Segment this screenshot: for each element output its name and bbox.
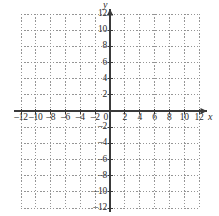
y-tick-label--4: –4 (98, 139, 107, 149)
y-tick-label--10: –10 (93, 187, 107, 197)
x-tick-label--12: –12 (14, 113, 28, 123)
y-tick-label--8: –8 (98, 171, 107, 181)
y-tick-label-2: 2 (102, 90, 107, 100)
y-axis-name: y (103, 0, 107, 10)
x-tick-label--4: –4 (76, 113, 85, 123)
coordinate-grid-figure: –12 –10 –8 –6 –4 –2 0 2 4 6 8 10 12 12 1… (0, 0, 219, 216)
x-tick-label-8: 8 (167, 113, 172, 123)
x-tick-label-4: 4 (137, 113, 142, 123)
x-tick-label-10: 10 (180, 113, 189, 123)
x-tick-label--6: –6 (61, 113, 70, 123)
coordinate-plane-svg (0, 0, 219, 216)
y-tick-label--2: –2 (98, 122, 107, 132)
y-tick-label-4: 4 (102, 74, 107, 84)
x-tick-label-6: 6 (152, 113, 157, 123)
y-tick-label--12: –12 (93, 203, 107, 213)
y-tick-label-12: 12 (98, 9, 107, 19)
x-tick-label-12: 12 (194, 113, 203, 123)
y-tick-label-6: 6 (102, 58, 107, 68)
x-tick-label--8: –8 (46, 113, 55, 123)
y-axis-arrowhead (107, 9, 113, 16)
y-tick-label-8: 8 (102, 42, 107, 52)
y-tick-label-10: 10 (98, 25, 107, 35)
x-tick-label--10: –10 (29, 113, 43, 123)
y-tick-label--6: –6 (98, 155, 107, 165)
x-axis-name: x (208, 112, 212, 122)
x-tick-label-2: 2 (123, 113, 128, 123)
